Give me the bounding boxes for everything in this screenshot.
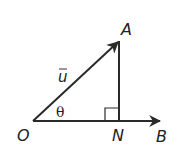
label-a: A: [120, 20, 132, 39]
label-vector-u: u: [58, 68, 68, 86]
label-o: O: [17, 126, 30, 145]
label-b: B: [156, 127, 167, 146]
label-n: N: [112, 126, 124, 145]
vector-diagram: A O N B u θ: [0, 0, 184, 149]
right-angle-marker: [105, 108, 119, 121]
label-theta: θ: [56, 104, 64, 120]
